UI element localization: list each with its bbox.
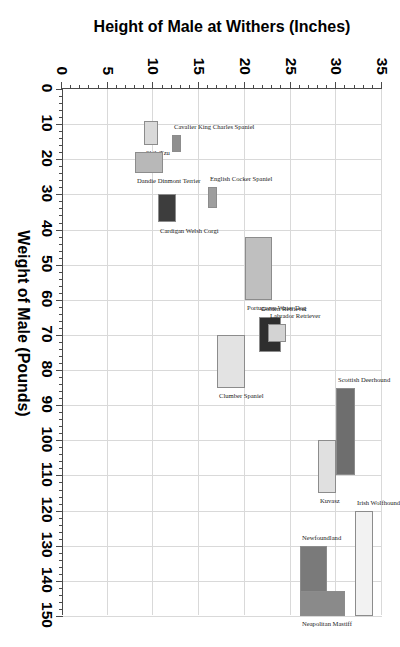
y-tick-label: 35 xyxy=(373,0,391,75)
y-minor-tick xyxy=(226,85,227,89)
y-tick-label: 15 xyxy=(190,0,208,75)
x-minor-tick xyxy=(59,349,63,350)
x-tick-label: 40 xyxy=(38,220,56,237)
x-tick-label: 20 xyxy=(38,150,56,167)
breed-label: Newfoundland xyxy=(302,534,341,541)
x-gridline xyxy=(63,265,382,266)
x-tick xyxy=(56,370,63,371)
x-gridline xyxy=(63,546,382,547)
x-tick xyxy=(56,194,63,195)
x-minor-tick xyxy=(59,173,63,174)
x-tick-label: 0 xyxy=(38,84,56,93)
breed-label: Cavalier King Charles Spaniel xyxy=(174,123,254,130)
x-minor-tick xyxy=(59,609,63,610)
y-minor-tick xyxy=(189,85,190,89)
x-tick-label: 150 xyxy=(38,602,56,628)
y-tick xyxy=(244,82,245,89)
y-gridline xyxy=(107,89,108,615)
x-minor-tick xyxy=(59,321,63,322)
x-minor-tick xyxy=(59,539,63,540)
x-tick xyxy=(56,616,63,617)
breed-range-box xyxy=(208,187,217,208)
y-tick xyxy=(381,82,382,89)
y-minor-tick xyxy=(171,85,172,89)
y-minor-tick xyxy=(116,85,117,89)
breed-range-box xyxy=(172,135,181,153)
breed-range-box xyxy=(158,194,176,222)
y-minor-tick xyxy=(271,85,272,89)
x-minor-tick xyxy=(59,286,63,287)
x-minor-tick xyxy=(59,518,63,519)
x-minor-tick xyxy=(59,391,63,392)
x-tick-label: 130 xyxy=(38,532,56,558)
y-minor-tick xyxy=(308,85,309,89)
y-minor-tick xyxy=(162,85,163,89)
y-minor-tick xyxy=(317,85,318,89)
x-minor-tick xyxy=(59,251,63,252)
y-minor-tick xyxy=(216,85,217,89)
x-tick xyxy=(56,475,63,476)
x-minor-tick xyxy=(59,602,63,603)
y-minor-tick xyxy=(363,85,364,89)
y-minor-tick xyxy=(98,85,99,89)
x-minor-tick xyxy=(59,490,63,491)
y-minor-tick xyxy=(372,85,373,89)
y-minor-tick xyxy=(70,85,71,89)
x-minor-tick xyxy=(59,152,63,153)
x-minor-tick xyxy=(59,377,63,378)
y-minor-tick xyxy=(354,85,355,89)
breed-range-box xyxy=(135,152,162,173)
x-tick xyxy=(56,546,63,547)
x-gridline xyxy=(63,194,382,195)
x-minor-tick xyxy=(59,497,63,498)
breed-range-box xyxy=(355,511,373,616)
x-minor-tick xyxy=(59,117,63,118)
x-minor-tick xyxy=(59,398,63,399)
x-minor-tick xyxy=(59,307,63,308)
x-tick-label: 50 xyxy=(38,255,56,272)
x-minor-tick xyxy=(59,279,63,280)
x-minor-tick xyxy=(59,461,63,462)
x-gridline xyxy=(63,511,382,512)
x-minor-tick xyxy=(59,454,63,455)
x-minor-tick xyxy=(59,138,63,139)
x-minor-tick xyxy=(59,166,63,167)
x-minor-tick xyxy=(59,468,63,469)
x-minor-tick xyxy=(59,223,63,224)
x-minor-tick xyxy=(59,201,63,202)
y-tick-label: 10 xyxy=(144,0,162,75)
x-gridline xyxy=(63,230,382,231)
x-tick-label: 140 xyxy=(38,567,56,593)
breed-range-box xyxy=(300,591,346,616)
x-minor-tick xyxy=(59,258,63,259)
breed-label: Scottish Deerhound xyxy=(338,376,390,383)
x-minor-tick xyxy=(59,567,63,568)
x-axis-title: Weight of Male (Pounds) xyxy=(14,0,32,647)
x-tick xyxy=(56,89,63,90)
x-minor-tick xyxy=(59,412,63,413)
x-minor-tick xyxy=(59,384,63,385)
x-minor-tick xyxy=(59,588,63,589)
y-gridline xyxy=(198,89,199,615)
x-minor-tick xyxy=(59,419,63,420)
x-gridline xyxy=(63,159,382,160)
x-tick-label: 60 xyxy=(38,290,56,307)
x-minor-tick xyxy=(59,208,63,209)
x-minor-tick xyxy=(59,342,63,343)
x-minor-tick xyxy=(59,244,63,245)
y-minor-tick xyxy=(134,85,135,89)
x-gridline xyxy=(63,405,382,406)
x-tick xyxy=(56,405,63,406)
x-minor-tick xyxy=(59,433,63,434)
x-minor-tick xyxy=(59,215,63,216)
y-tick xyxy=(152,82,153,89)
x-minor-tick xyxy=(59,482,63,483)
breed-range-box xyxy=(245,237,272,300)
breed-label: Clumber Spaniel xyxy=(219,392,264,399)
y-minor-tick xyxy=(125,85,126,89)
x-minor-tick xyxy=(59,131,63,132)
y-gridline xyxy=(290,89,291,615)
x-tick-label: 30 xyxy=(38,185,56,202)
y-tick xyxy=(335,82,336,89)
y-minor-tick xyxy=(253,85,254,89)
